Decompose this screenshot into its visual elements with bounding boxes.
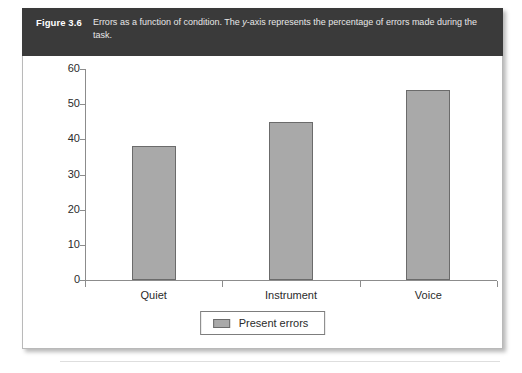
y-tick-label: 20 xyxy=(40,203,80,215)
figure-caption-text: Errors as a function of condition. The y… xyxy=(93,16,487,42)
y-tick-label: 30 xyxy=(40,168,80,180)
y-tick-label: 50 xyxy=(40,97,80,109)
figure-number-label: Figure 3.6 xyxy=(36,16,82,29)
x-tick-mark xyxy=(222,281,223,287)
y-tick-label: 0 xyxy=(40,273,80,285)
bar-voice xyxy=(406,90,450,280)
y-tick-label-wrap: 0 xyxy=(23,280,80,281)
chart-legend: Present errors xyxy=(200,311,326,335)
y-tick-label-wrap: 30 xyxy=(23,175,80,176)
y-tick-mark xyxy=(80,69,85,70)
y-tick-label: 10 xyxy=(40,238,80,250)
y-tick-label-wrap: 40 xyxy=(23,139,80,140)
y-tick-label-wrap: 10 xyxy=(23,245,80,246)
y-tick-label: 40 xyxy=(40,132,80,144)
chart-plot-area: 0102030405060 QuietInstrumentVoice Prese… xyxy=(22,56,503,349)
figure-container: Figure 3.6 Errors as a function of condi… xyxy=(22,8,503,349)
x-tick-mark xyxy=(85,281,86,287)
x-axis-label-voice: Voice xyxy=(415,289,442,301)
bar-quiet xyxy=(132,146,176,280)
x-tick-mark xyxy=(497,281,498,287)
legend-swatch-icon xyxy=(213,319,230,328)
page-rule-divider xyxy=(60,361,500,362)
y-tick-mark xyxy=(80,104,85,105)
figure-screenshot: Figure 3.6 Errors as a function of condi… xyxy=(0,0,522,373)
caption-segment-1: Errors as a function of condition. The xyxy=(93,17,242,27)
y-tick-mark xyxy=(80,210,85,211)
legend-label-present-errors: Present errors xyxy=(239,317,309,329)
figure-caption-bar: Figure 3.6 Errors as a function of condi… xyxy=(22,8,503,56)
y-tick-mark xyxy=(80,245,85,246)
y-tick-label-wrap: 50 xyxy=(23,104,80,105)
y-tick-label: 60 xyxy=(40,62,80,74)
y-tick-label-wrap: 20 xyxy=(23,210,80,211)
x-axis-label-instrument: Instrument xyxy=(265,289,317,301)
x-axis-label-quiet: Quiet xyxy=(141,289,167,301)
y-axis-line xyxy=(85,69,86,281)
y-tick-mark xyxy=(80,139,85,140)
y-tick-label-wrap: 60 xyxy=(23,69,80,70)
x-axis-line xyxy=(85,280,497,281)
y-tick-mark xyxy=(80,175,85,176)
x-tick-mark xyxy=(360,281,361,287)
bar-instrument xyxy=(269,122,313,280)
